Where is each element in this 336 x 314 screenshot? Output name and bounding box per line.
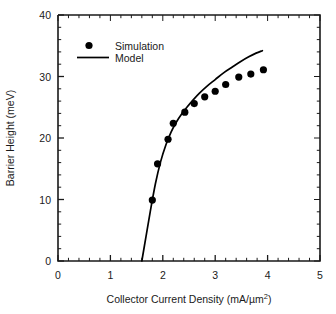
data-point-marker: [247, 70, 254, 77]
y-tick-label: 40: [39, 9, 51, 21]
chart-canvas: 012345 010203040 Simulation Model Collec…: [0, 0, 336, 314]
y-axis-title: Barrier Height (meV): [4, 90, 16, 186]
legend-marker-simulation-icon: [85, 42, 92, 49]
x-tick-label: 3: [212, 269, 218, 281]
x-tick-label: 5: [317, 269, 323, 281]
data-point-marker: [149, 197, 156, 204]
x-tick-label: 0: [55, 269, 61, 281]
data-point-marker: [201, 93, 208, 100]
x-tick-label: 1: [107, 269, 113, 281]
data-point-marker: [164, 136, 171, 143]
y-tick-label: 0: [45, 255, 51, 267]
legend-label-simulation: Simulation: [115, 40, 164, 52]
data-point-marker: [260, 66, 267, 73]
data-point-marker: [235, 74, 242, 81]
x-tick-label: 4: [265, 269, 271, 281]
data-point-marker: [212, 88, 219, 95]
data-point-marker: [170, 120, 177, 127]
data-point-marker: [191, 100, 198, 107]
x-tick-label: 2: [160, 269, 166, 281]
chart-figure: 012345 010203040 Simulation Model Collec…: [0, 0, 336, 314]
data-point-marker: [181, 109, 188, 116]
data-point-marker: [222, 81, 229, 88]
data-point-marker: [154, 160, 161, 167]
y-tick-label: 30: [39, 71, 51, 83]
x-axis-title: Collector Current Density (mA/µm2): [107, 292, 272, 305]
legend-label-model: Model: [115, 52, 144, 64]
y-tick-label: 20: [39, 132, 51, 144]
y-tick-label: 10: [39, 194, 51, 206]
